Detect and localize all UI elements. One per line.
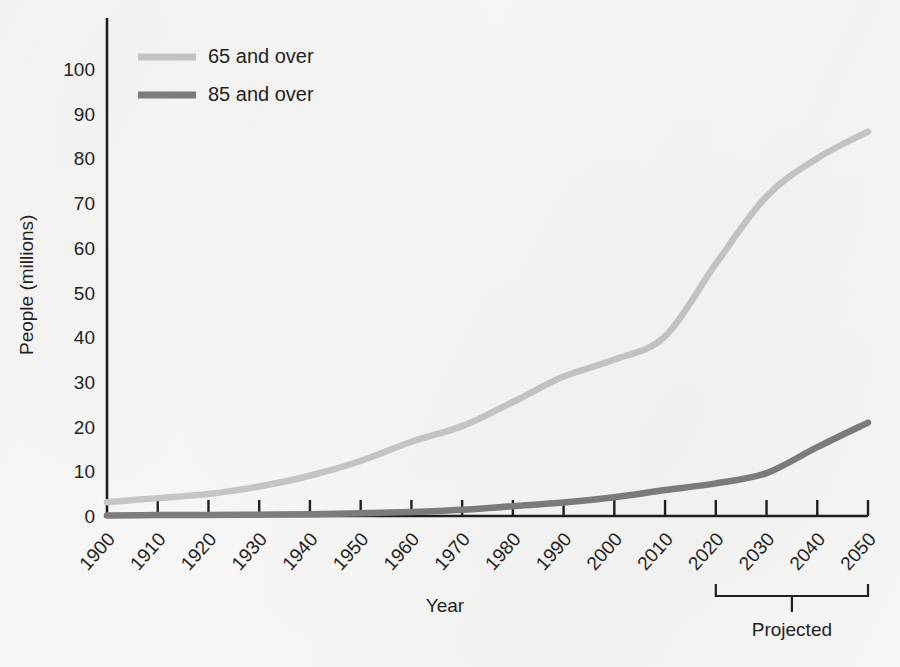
y-tick-label: 40 bbox=[74, 327, 95, 348]
chart-page: 0102030405060708090100 19001910192019301… bbox=[0, 0, 900, 667]
y-tick-label: 90 bbox=[74, 104, 95, 125]
y-tick-label: 50 bbox=[74, 283, 95, 304]
y-tick-label: 30 bbox=[74, 372, 95, 393]
y-tick-label: 80 bbox=[74, 148, 95, 169]
y-tick-label: 70 bbox=[74, 193, 95, 214]
y-tick-label: 60 bbox=[74, 238, 95, 259]
y-tick-label: 0 bbox=[84, 506, 95, 527]
legend-label-65-and-over: 65 and over bbox=[208, 45, 314, 67]
y-tick-label: 10 bbox=[74, 461, 95, 482]
y-axis-title: People (millions) bbox=[16, 215, 37, 355]
legend-label-85-and-over: 85 and over bbox=[208, 83, 314, 105]
y-tick-label: 100 bbox=[63, 59, 95, 80]
line-chart: 0102030405060708090100 19001910192019301… bbox=[0, 0, 900, 667]
y-tick-label: 20 bbox=[74, 417, 95, 438]
projected-label: Projected bbox=[752, 619, 832, 640]
x-axis-title: Year bbox=[426, 595, 465, 616]
